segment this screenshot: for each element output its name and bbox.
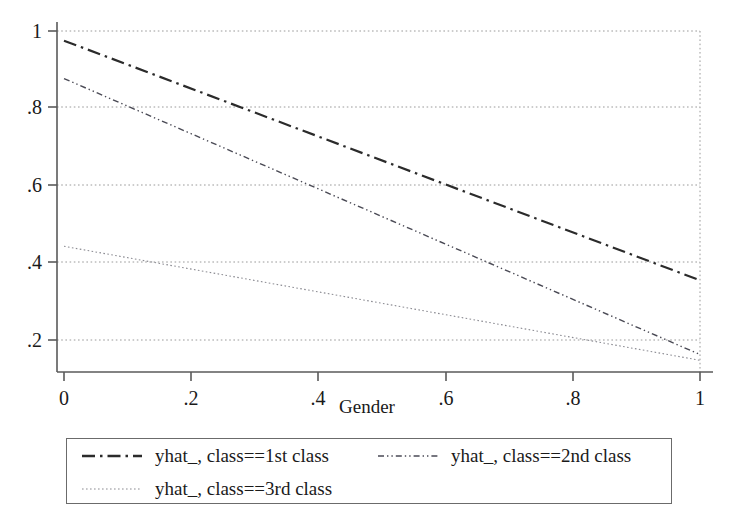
series-line-3rd-class: [64, 246, 700, 360]
legend-label-3rd-class: yhat_, class==3rd class: [155, 479, 332, 498]
y-tick-label-1: 1: [4, 21, 42, 41]
legend-row: yhat_, class==1st class yhat_, class==2n…: [67, 439, 671, 472]
dotted-key-icon: [81, 480, 143, 498]
dash-dot-dot-key-icon: [377, 447, 439, 465]
x-axis-ticks: [64, 372, 700, 381]
y-tick-label-0.6: .6: [4, 175, 42, 195]
dash-dot-key-icon: [81, 447, 143, 465]
y-tick-label-0.2: .2: [4, 330, 42, 350]
x-axis-title: Gender: [0, 396, 734, 418]
y-axis-ticks: [48, 31, 57, 340]
legend-row: yhat_, class==3rd class: [67, 472, 671, 505]
legend-entry-1st-class[interactable]: yhat_, class==1st class: [81, 439, 329, 472]
series-line-1st-class: [64, 41, 700, 281]
legend: yhat_, class==1st class yhat_, class==2n…: [66, 438, 672, 504]
y-tick-label-0.4: .4: [4, 252, 42, 272]
legend-entry-3rd-class[interactable]: yhat_, class==3rd class: [81, 472, 332, 505]
legend-label-2nd-class: yhat_, class==2nd class: [451, 446, 631, 465]
chart-figure: 1 .8 .6 .4 .2 0 .2 .4 .6 .8 1 Gender yha…: [0, 0, 734, 527]
legend-entry-2nd-class[interactable]: yhat_, class==2nd class: [377, 439, 631, 472]
y-tick-label-0.8: .8: [4, 97, 42, 117]
y-gridlines: [57, 31, 700, 340]
legend-label-1st-class: yhat_, class==1st class: [155, 446, 329, 465]
series-line-2nd-class: [64, 79, 700, 355]
